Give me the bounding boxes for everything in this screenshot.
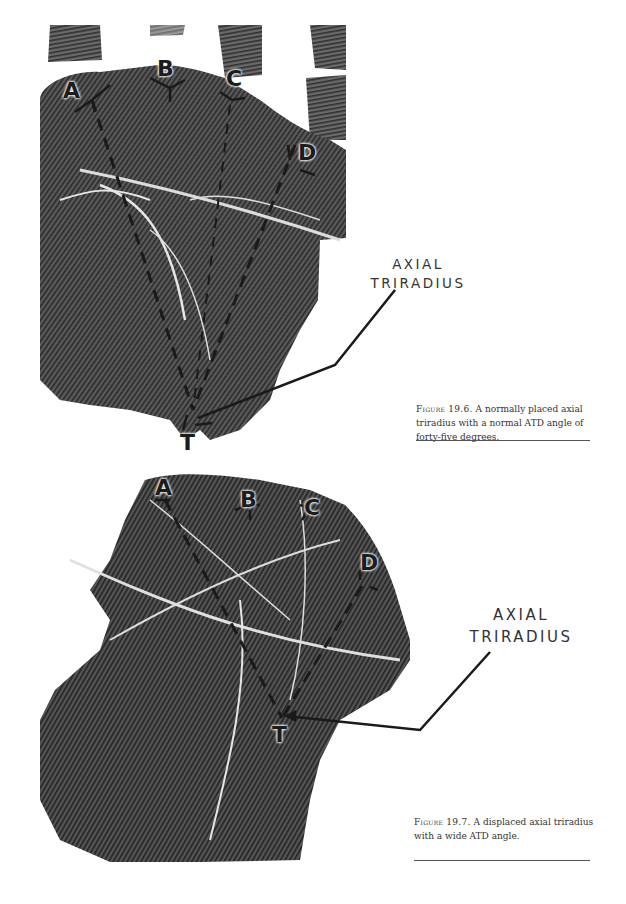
- figure-caption-19-7: Figure 19.7. A displaced axial triradius…: [414, 815, 614, 843]
- figure-caption-19-6: Figure 19.6. A normally placed axial tri…: [416, 402, 606, 444]
- triradius-label-b-bottom: B: [240, 487, 257, 512]
- triradius-label-d-bottom: D: [360, 550, 378, 575]
- triradius-label-a-top: A: [63, 78, 80, 103]
- axial-label-line2: TRIRADIUS: [466, 626, 576, 648]
- axial-triradius-label-bottom: AXIAL TRIRADIUS: [466, 604, 576, 648]
- triradius-label-t-top: T: [180, 430, 195, 455]
- triradius-label-c-bottom: C: [304, 495, 320, 520]
- triradius-label-b-top: B: [157, 56, 174, 81]
- figure-label: Figure 19.6.: [416, 404, 473, 414]
- caption-rule-bottom: [414, 860, 590, 861]
- triradius-label-c-top: C: [226, 66, 242, 91]
- triradius-label-t-bottom: T: [272, 722, 287, 747]
- axial-label-line2: TRIRADIUS: [368, 274, 468, 293]
- triradius-label-a-bottom: A: [155, 475, 172, 500]
- page: A B C D T AXIAL TRIRADIUS Figure 19.6. A…: [0, 0, 626, 904]
- triradius-label-d-top: D: [298, 140, 316, 165]
- axial-label-line1: AXIAL: [368, 255, 468, 274]
- axial-triradius-label-top: AXIAL TRIRADIUS: [368, 255, 468, 293]
- figure-label: Figure 19.7.: [414, 817, 471, 827]
- axial-label-line1: AXIAL: [466, 604, 576, 626]
- palm-print-image-top: [0, 0, 626, 460]
- caption-rule-top: [416, 440, 590, 441]
